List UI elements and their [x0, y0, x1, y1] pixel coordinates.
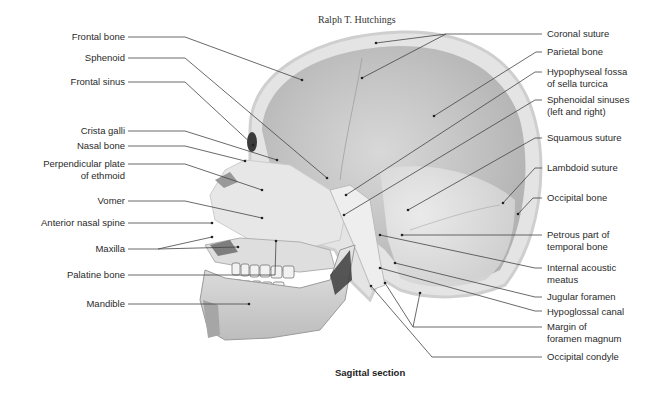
label-frontal-bone: Frontal bone [72, 31, 125, 43]
label-sphenoid: Sphenoid [85, 52, 125, 64]
label-line-1: Hypophyseal fossa [547, 66, 627, 78]
label-mandible: Mandible [86, 298, 125, 310]
label-internal-acoustic-meatus: Internal acoustic meatus [547, 262, 616, 285]
label-nasal-bone: Nasal bone [77, 140, 125, 152]
figure-caption: Sagittal section [335, 367, 405, 378]
label-line-1: Sphenoidal sinuses [547, 94, 629, 106]
label-coronal-suture: Coronal suture [547, 28, 609, 40]
label-petrous-part: Petrous part of temporal bone [547, 229, 609, 252]
label-maxilla: Maxilla [95, 243, 125, 255]
label-line-1: Internal acoustic [547, 262, 616, 274]
frontal-sinus-cavity [247, 132, 257, 152]
label-line-2: of sella turcica [547, 78, 627, 90]
label-line-2: temporal bone [547, 241, 609, 253]
label-frontal-sinus: Frontal sinus [71, 76, 125, 88]
label-parietal-bone: Parietal bone [547, 46, 603, 58]
label-line-2: (left and right) [547, 106, 629, 118]
label-line-2: of ethmoid [43, 170, 125, 182]
label-palatine-bone: Palatine bone [67, 269, 125, 281]
label-lambdoid-suture: Lambdoid suture [547, 162, 618, 174]
label-hypophyseal-fossa: Hypophyseal fossa of sella turcica [547, 66, 627, 89]
label-margin-foramen-magnum: Margin of foramen magnum [547, 321, 621, 344]
label-hypoglossal-canal: Hypoglossal canal [547, 306, 624, 318]
label-occipital-bone: Occipital bone [547, 192, 607, 204]
label-squamous-suture: Squamous suture [547, 132, 621, 144]
label-line-2: meatus [547, 274, 616, 286]
label-line-2: foramen magnum [547, 333, 621, 345]
label-occipital-condyle: Occipital condyle [547, 351, 619, 363]
anatomy-figure: Ralph T. Hutchings Frontal bone Sphenoid… [0, 0, 662, 396]
label-crista-galli: Crista galli [81, 125, 125, 137]
label-anterior-nasal-spine: Anterior nasal spine [41, 217, 125, 229]
label-perpendicular-plate: Perpendicular plate of ethmoid [43, 158, 125, 181]
label-line-1: Perpendicular plate [43, 158, 125, 170]
label-vomer: Vomer [98, 195, 125, 207]
label-jugular-foramen: Jugular foramen [547, 291, 616, 303]
photo-credit: Ralph T. Hutchings [318, 14, 396, 25]
label-line-1: Petrous part of [547, 229, 609, 241]
label-line-1: Margin of [547, 321, 621, 333]
label-sphenoidal-sinuses: Sphenoidal sinuses (left and right) [547, 94, 629, 117]
